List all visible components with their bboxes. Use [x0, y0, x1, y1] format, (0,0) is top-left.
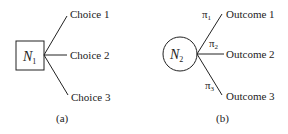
choice-2-label: Choice 2: [70, 49, 109, 61]
branch-line-3: [44, 55, 68, 95]
outcome-1-label: Outcome 1: [226, 8, 275, 20]
panel-b: N2 π1 π2 π3 Outcome 1 Outcome 2 Outcome …: [163, 8, 275, 125]
caption-b: (b): [216, 112, 229, 125]
outcome-3-label: Outcome 3: [226, 90, 275, 102]
caption-a: (a): [56, 112, 69, 125]
probability-1-label: π1: [202, 8, 212, 22]
outcome-2-label: Outcome 2: [226, 48, 275, 60]
panel-a: N1 Choice 1 Choice 2 Choice 3 (a): [16, 8, 111, 125]
probability-2-label: π2: [209, 37, 219, 51]
chance-node-circle: [163, 37, 197, 71]
decision-diagram: N1 Choice 1 Choice 2 Choice 3 (a) N2 π1 …: [0, 0, 288, 134]
branch-line-1: [44, 16, 67, 55]
choice-3-label: Choice 3: [71, 91, 111, 103]
choice-1-label: Choice 1: [70, 8, 109, 20]
